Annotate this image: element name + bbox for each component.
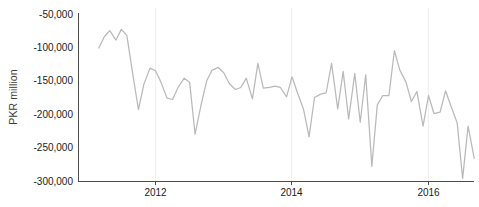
y-tick-label-2: -150,000 (34, 75, 74, 86)
x-tick-label-1: 2014 (280, 187, 303, 198)
x-tick-label-0: 2012 (144, 187, 167, 198)
x-axis: 2012 2014 2016 (78, 182, 474, 199)
chart-container: -50,000 -100,000 -150,000 -200,000 -250,… (0, 0, 479, 207)
y-tick-label-4: -250,000 (34, 142, 74, 153)
y-axis-title: PKR million (7, 69, 19, 124)
line-chart: -50,000 -100,000 -150,000 -200,000 -250,… (0, 0, 479, 207)
y-tick-label-3: -200,000 (34, 109, 74, 120)
y-tick-label-1: -100,000 (34, 42, 74, 53)
y-tick-label-0: -50,000 (39, 9, 73, 20)
y-tick-label-5: -300,000 (34, 176, 74, 187)
gridlines (156, 8, 429, 181)
x-tick-label-2: 2016 (417, 187, 440, 198)
y-axis: -50,000 -100,000 -150,000 -200,000 -250,… (34, 9, 79, 187)
